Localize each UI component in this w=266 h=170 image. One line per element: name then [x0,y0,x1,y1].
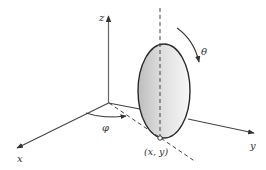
x-axis [17,103,109,148]
phi-arc-arrow [86,113,126,117]
x-axis-label: x [17,153,23,164]
contact-point-marker [158,136,162,140]
phi-label: φ [102,122,109,133]
z-axis-label: z [98,12,105,23]
contact-point-label: (x, y) [144,146,168,157]
rotating-disk [138,44,190,138]
y-axis-label: y [249,140,256,151]
y-axis-segment-near [109,103,141,109]
theta-label: θ [201,46,207,57]
coordinate-diagram: z x φ y θ (x, y) [0,0,266,170]
y-axis-segment-far [188,119,254,133]
